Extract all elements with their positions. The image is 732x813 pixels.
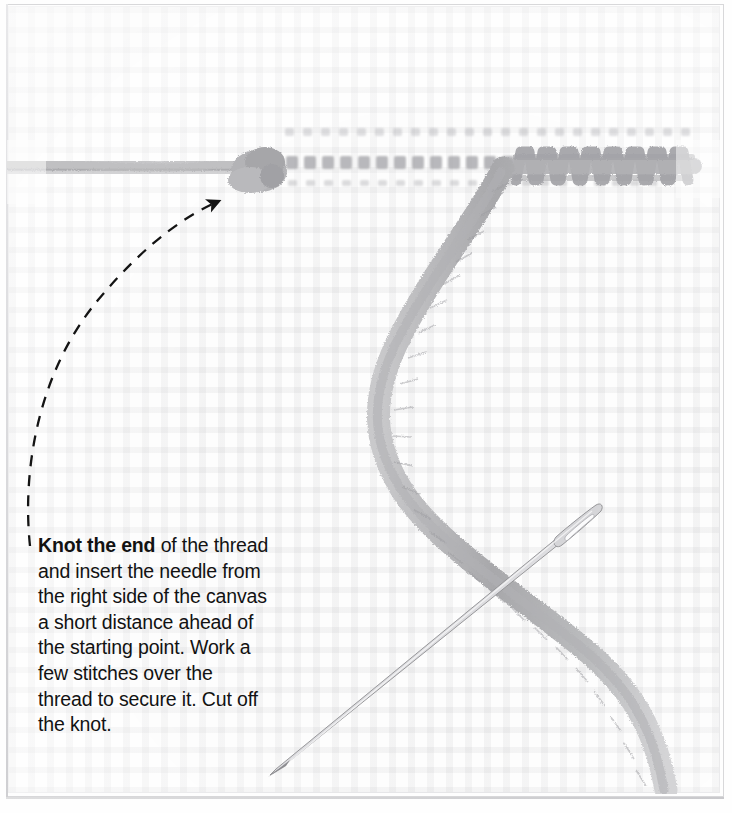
pointer-arrow bbox=[28, 201, 219, 546]
canvas-hole-row-main bbox=[286, 156, 514, 169]
canvas-hole-row-top bbox=[285, 128, 690, 136]
thread-left-fade bbox=[0, 140, 46, 204]
completed-stitches bbox=[512, 152, 694, 180]
stitches-right-fade bbox=[676, 140, 722, 198]
thread-knot bbox=[228, 147, 287, 193]
working-thread bbox=[377, 168, 666, 790]
caption-rest: of the thread and insert the needle from… bbox=[38, 534, 273, 735]
caption-lead: Knot the end bbox=[38, 534, 155, 556]
caption-text: Knot the end of the thread and insert th… bbox=[38, 533, 270, 738]
figure-root: Knot the end of the thread and insert th… bbox=[0, 0, 732, 813]
